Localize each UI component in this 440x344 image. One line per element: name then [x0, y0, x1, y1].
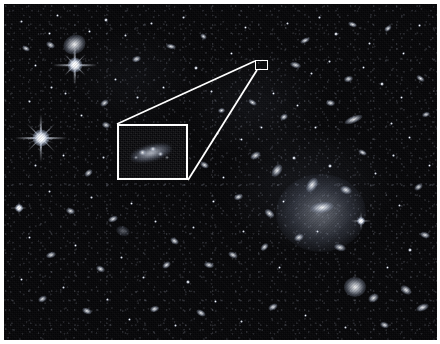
source-box [255, 60, 268, 70]
deep-field-figure [0, 0, 440, 344]
inset-knot [165, 156, 169, 159]
sky-image [4, 4, 437, 340]
inset-knot [150, 147, 156, 151]
inset-box [117, 124, 188, 180]
inset-knot [134, 156, 138, 159]
inset-knot [139, 150, 146, 155]
image-grain [4, 4, 437, 340]
inset-knot [158, 152, 163, 156]
